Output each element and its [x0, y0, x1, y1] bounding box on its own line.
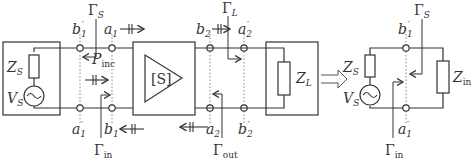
eq-vs-label: VS	[343, 90, 359, 108]
a1-prime-label: a1′	[72, 120, 86, 139]
diagram-svg: ZS VS [S] ZL b1′ a1 a1′ b1 b2 a2′ a2 b2′	[0, 0, 471, 163]
b2-prime-label: b2′	[238, 120, 253, 139]
eq-gamma-s-label: ΓS	[414, 2, 430, 20]
eq-gamma-in-label: Γin	[385, 142, 404, 160]
source-impedance-resistor	[29, 55, 39, 78]
zs-label: ZS	[6, 59, 23, 77]
eq-b1-prime-label: b1′	[398, 20, 413, 39]
b1-label: b1	[104, 121, 119, 139]
a1-label: a1	[104, 21, 118, 39]
vs-label: VS	[7, 90, 23, 108]
a2-label: a2	[206, 121, 220, 139]
s-matrix-label: [S]	[151, 71, 172, 87]
eq-zs-label: ZS	[342, 59, 359, 77]
eq-source-impedance-resistor	[365, 55, 375, 77]
b1-prime-label: b1′	[72, 20, 87, 39]
a2-prime-label: a2′	[238, 20, 252, 39]
zl-label: ZL	[295, 70, 312, 88]
p-inc-label: Pinc	[91, 51, 115, 69]
load-impedance-resistor	[278, 62, 290, 95]
zin-label: Zin	[452, 69, 471, 87]
b2-label: b2	[196, 21, 211, 39]
scattering-diagram: ZS VS [S] ZL b1′ a1 a1′ b1 b2 a2′ a2 b2′	[0, 0, 471, 163]
input-impedance-resistor	[437, 61, 449, 93]
gamma-l-label: ΓL	[222, 0, 238, 18]
gamma-s-label: ΓS	[88, 2, 104, 20]
eq-a1-prime-label: a1′	[398, 120, 412, 139]
gamma-in-label: Γin	[94, 142, 113, 160]
gamma-out-label: Γout	[213, 142, 238, 160]
equivalent-circuit	[360, 48, 449, 108]
